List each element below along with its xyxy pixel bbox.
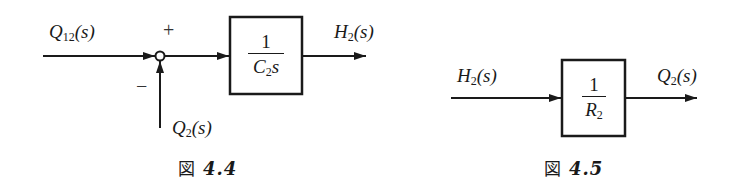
caption-number: 4.4 bbox=[203, 158, 237, 179]
caption-number: 4.5 bbox=[569, 158, 603, 179]
subscript: 2 bbox=[597, 108, 603, 122]
variable: s bbox=[272, 56, 279, 77]
minus-sign: − bbox=[136, 76, 147, 96]
output-label-q2: Q2(s) bbox=[657, 66, 697, 87]
argument: (s) bbox=[477, 65, 497, 86]
argument: (s) bbox=[192, 117, 212, 138]
argument: (s) bbox=[75, 21, 95, 42]
figure-caption-4-4: 図4.4 bbox=[178, 160, 237, 178]
summing-junction bbox=[156, 52, 165, 61]
argument: (s) bbox=[677, 65, 697, 86]
argument: (s) bbox=[354, 21, 374, 42]
symbol: C bbox=[253, 56, 266, 77]
symbol: Q bbox=[172, 117, 186, 138]
block-fraction-r2: 1 R2 bbox=[580, 75, 608, 121]
feedback-label-q2: Q2(s) bbox=[172, 118, 212, 139]
caption-prefix: 図 bbox=[544, 159, 561, 179]
numerator: 1 bbox=[589, 75, 599, 96]
block-fraction-c2s: 1 C2s bbox=[248, 32, 284, 78]
numerator: 1 bbox=[261, 32, 271, 53]
symbol: H bbox=[334, 21, 348, 42]
output-label-h2: H2(s) bbox=[334, 22, 374, 43]
denominator: R2 bbox=[585, 97, 603, 121]
subscript: 12 bbox=[63, 30, 75, 44]
plus-sign: + bbox=[163, 20, 174, 40]
symbol: R bbox=[585, 99, 597, 120]
denominator: C2s bbox=[253, 54, 279, 78]
symbol: Q bbox=[657, 65, 671, 86]
caption-prefix: 図 bbox=[178, 159, 195, 179]
symbol: H bbox=[457, 65, 471, 86]
input-label-h2: H2(s) bbox=[457, 66, 497, 87]
input-label-q12: Q12(s) bbox=[49, 22, 95, 43]
figure-caption-4-5: 図4.5 bbox=[544, 160, 603, 178]
symbol: Q bbox=[49, 21, 63, 42]
